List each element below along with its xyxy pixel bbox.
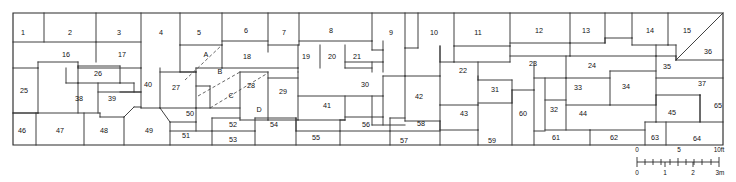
room-label-27: 27 bbox=[172, 83, 180, 92]
room-label-9: 9 bbox=[389, 28, 393, 37]
scale-bar-feet-labels: 0510ft bbox=[635, 146, 724, 153]
room-label-14: 14 bbox=[646, 26, 654, 35]
room-label-62: 62 bbox=[610, 133, 618, 142]
room-label-64: 64 bbox=[693, 134, 701, 143]
scale-meters-tick-1: 1 bbox=[663, 169, 667, 176]
wall-group-top-row bbox=[13, 13, 676, 68]
scale-meters-tick-2: 2 bbox=[691, 169, 695, 176]
plan-canvas: 1234567891011121314151617181920212223242… bbox=[0, 0, 736, 182]
room-label-48: 48 bbox=[100, 126, 108, 135]
room-label-61: 61 bbox=[552, 133, 560, 142]
room-label-39: 39 bbox=[108, 94, 116, 103]
room-label-32: 32 bbox=[550, 105, 558, 114]
room-label-47: 47 bbox=[56, 126, 64, 135]
room-label-40: 40 bbox=[144, 80, 152, 89]
area-label-B: B bbox=[218, 67, 223, 76]
room-label-22: 22 bbox=[459, 66, 467, 75]
room-label-16: 16 bbox=[62, 50, 70, 59]
room-label-54: 54 bbox=[270, 120, 278, 129]
site-plan-figure: 1234567891011121314151617181920212223242… bbox=[0, 0, 736, 182]
room-label-4: 4 bbox=[159, 28, 163, 37]
room-label-55: 55 bbox=[312, 133, 320, 142]
room-label-42: 42 bbox=[415, 92, 423, 101]
scale-meters-tick-0: 0 bbox=[635, 169, 639, 176]
room-label-10: 10 bbox=[430, 28, 438, 37]
room-label-11: 11 bbox=[474, 28, 481, 37]
room-label-6: 6 bbox=[244, 26, 248, 35]
room-label-2: 2 bbox=[68, 28, 72, 37]
room-label-19: 19 bbox=[302, 52, 310, 61]
room-label-57: 57 bbox=[400, 136, 408, 145]
room-label-28: 28 bbox=[247, 81, 255, 90]
room-label-18: 18 bbox=[243, 52, 251, 61]
room-label-43: 43 bbox=[460, 109, 468, 118]
room-label-63: 63 bbox=[651, 133, 659, 142]
room-label-53: 53 bbox=[229, 135, 237, 144]
room-label-52: 52 bbox=[229, 120, 237, 129]
room-label-12: 12 bbox=[535, 26, 543, 35]
room-label-58: 58 bbox=[417, 119, 425, 128]
scale-feet-tick-1: 5 bbox=[677, 146, 681, 153]
room-label-38: 38 bbox=[75, 94, 83, 103]
room-label-7: 7 bbox=[282, 28, 286, 37]
room-label-56: 56 bbox=[362, 120, 370, 129]
room-label-44: 44 bbox=[579, 109, 587, 118]
scale-meters-tick-3: 3m bbox=[716, 169, 725, 176]
wall-group-bottom-band bbox=[13, 107, 666, 145]
room-label-20: 20 bbox=[328, 52, 336, 61]
area-label-A: A bbox=[204, 50, 209, 59]
room-label-3: 3 bbox=[117, 28, 121, 37]
room-label-25: 25 bbox=[20, 86, 28, 95]
room-label-26: 26 bbox=[94, 69, 102, 78]
scale-bar: 0510ft 0123m bbox=[635, 146, 724, 176]
scale-feet-tick-0: 0 bbox=[635, 146, 639, 153]
room-label-46: 46 bbox=[18, 126, 26, 135]
room-label-51: 51 bbox=[182, 131, 190, 140]
dashed-area-divider-lines bbox=[185, 45, 268, 108]
area-label-D: D bbox=[256, 105, 261, 114]
room-label-36: 36 bbox=[704, 47, 712, 56]
room-label-49: 49 bbox=[145, 126, 153, 135]
room-label-29: 29 bbox=[279, 87, 287, 96]
room-label-35: 35 bbox=[663, 62, 671, 71]
room-label-33: 33 bbox=[574, 83, 582, 92]
room-label-37: 37 bbox=[698, 79, 706, 88]
room-label-24: 24 bbox=[588, 61, 596, 70]
room-label-31: 31 bbox=[491, 85, 499, 94]
room-label-60: 60 bbox=[519, 109, 527, 118]
room-label-13: 13 bbox=[582, 26, 590, 35]
room-label-59: 59 bbox=[488, 136, 496, 145]
wall-group-middle-band bbox=[13, 56, 723, 145]
room-label-30: 30 bbox=[361, 80, 369, 89]
room-label-15: 15 bbox=[683, 26, 691, 35]
room-label-41: 41 bbox=[323, 101, 331, 110]
room-label-21: 21 bbox=[353, 52, 361, 61]
room-label-17: 17 bbox=[118, 50, 126, 59]
room-label-8: 8 bbox=[329, 26, 333, 35]
room-label-65: 65 bbox=[714, 101, 722, 110]
room-label-45: 45 bbox=[668, 108, 676, 117]
area-label-C: C bbox=[228, 91, 233, 100]
room-label-34: 34 bbox=[622, 82, 630, 91]
room-label-1: 1 bbox=[21, 28, 25, 37]
room-label-5: 5 bbox=[197, 28, 201, 37]
scale-bar-meters-labels: 0123m bbox=[635, 169, 724, 176]
room-label-50: 50 bbox=[186, 109, 194, 118]
scale-feet-tick-2: 10ft bbox=[714, 146, 725, 153]
room-label-23: 23 bbox=[529, 59, 537, 68]
